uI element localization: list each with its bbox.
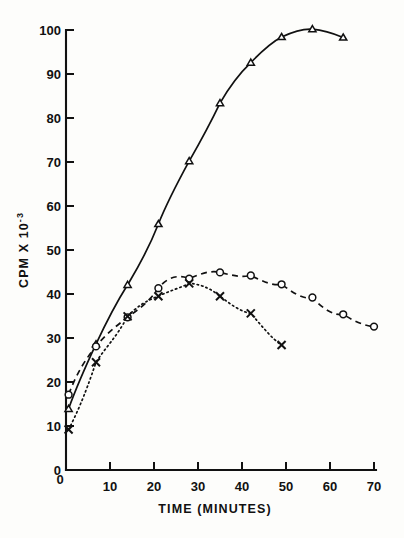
figure-canvas: 100 90 80 70 60 50 40 30 20 10 0 0 10 20 [0,0,404,538]
y-axis-title-exponent: -3 [15,212,25,222]
y-tick-label: 20 [47,375,61,390]
x-tick-label: 60 [323,479,337,494]
x-axis-tick-labels: 0 10 20 30 40 50 60 70 [56,472,381,494]
y-tick-label: 70 [47,155,61,170]
x-tick-label: 20 [147,479,161,494]
x-tick-label: 30 [191,479,205,494]
y-tick-label: 50 [47,243,61,258]
y-tick-label: 80 [47,111,61,126]
series-dotted-cross-markers [65,279,286,433]
x-tick-label: 50 [279,479,293,494]
series-dashed-circle-markers [65,269,377,398]
x-axis-ticks [110,462,374,470]
series-solid-triangle-line [69,29,344,409]
x-tick-label: 40 [235,479,249,494]
y-axis-tick-labels: 100 90 80 70 60 50 40 30 20 10 0 [39,23,61,478]
y-tick-label: 100 [39,23,61,38]
series-dotted-cross-line [69,283,282,429]
x-tick-label: 70 [367,479,381,494]
y-tick-label: 10 [47,419,61,434]
x-tick-label: 10 [103,479,117,494]
y-tick-label: 90 [47,67,61,82]
y-axis-title-main: CPM X 10 [17,222,31,288]
y-tick-label: 60 [47,199,61,214]
series-dashed-circle-line [69,272,374,395]
x-tick-label: 0 [56,472,63,487]
y-tick-label: 40 [47,287,61,302]
y-axis-title: CPM X 10-3 [15,212,31,288]
series-solid-triangle-markers [65,26,347,412]
line-chart: 100 90 80 70 60 50 40 30 20 10 0 0 10 20 [0,0,404,538]
y-tick-label: 30 [47,331,61,346]
x-axis-title: TIME (MINUTES) [158,502,271,516]
svg-text:CPM X 10-3: CPM X 10-3 [15,212,31,288]
